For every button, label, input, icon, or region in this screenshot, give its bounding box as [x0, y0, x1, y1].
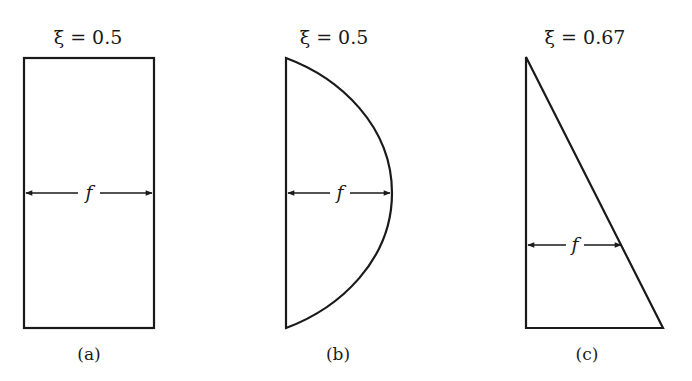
- diagram-canvas: ξ = 0.5 f (a) ξ = 0.5 f (b) ξ = 0.67 f (…: [0, 0, 692, 381]
- caption-a: (a): [77, 344, 100, 364]
- dimension-label-a: f: [83, 181, 95, 203]
- panel-a: ξ = 0.5 f (a): [24, 26, 154, 364]
- caption-b: (b): [326, 344, 350, 364]
- panel-b: ξ = 0.5 f (b): [286, 26, 392, 364]
- xi-label-a: ξ = 0.5: [54, 26, 123, 48]
- dimension-label-c: f: [569, 233, 581, 255]
- xi-label-b: ξ = 0.5: [300, 26, 369, 48]
- dimension-label-b: f: [334, 181, 346, 203]
- panel-c: ξ = 0.67 f (c): [526, 26, 663, 364]
- caption-c: (c): [576, 344, 599, 364]
- xi-label-c: ξ = 0.67: [545, 26, 626, 48]
- triangle-shape: [526, 57, 663, 328]
